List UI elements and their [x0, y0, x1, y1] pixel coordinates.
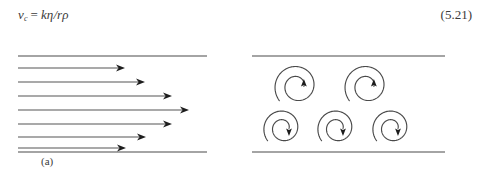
- eddy: [345, 67, 384, 101]
- equation-right-hand-side: kη/rρ: [41, 7, 69, 22]
- laminar-flow-diagram: [0, 36, 245, 175]
- streamline-arrow: [18, 145, 126, 152]
- figure-area: (a) (b): [0, 36, 489, 175]
- eddy-spiral: [264, 111, 298, 141]
- eddy-arrowhead-down: [340, 128, 346, 136]
- panel-turbulent-flow: (b): [245, 36, 489, 175]
- channel-walls-a: [18, 56, 207, 152]
- panel-laminar-flow: (a): [0, 36, 245, 175]
- figure-page: vc=kη/rρ (5.21) (a) (b): [0, 0, 489, 175]
- eddy-group: [264, 67, 407, 141]
- eddy-spiral: [373, 111, 407, 141]
- eddy-spiral: [318, 111, 352, 141]
- streamline-arrow: [18, 93, 172, 100]
- streamline-arrow: [18, 79, 145, 86]
- eddy-spiral: [345, 67, 384, 101]
- streamline-arrow: [18, 65, 125, 72]
- eddy-arrowhead-down: [286, 128, 292, 136]
- panel-caption-a: (a): [41, 155, 53, 167]
- equation-equals-sign: =: [31, 7, 38, 22]
- eddy: [275, 67, 314, 101]
- equation-subscript: c: [24, 14, 28, 23]
- equation-number: (5.21): [441, 7, 472, 23]
- streamline-group: [18, 65, 189, 152]
- eddy-spiral: [275, 67, 314, 101]
- eddy-arrowhead-down: [395, 128, 401, 136]
- eddy: [373, 111, 407, 141]
- eddy: [318, 111, 352, 141]
- streamline-arrow: [18, 134, 146, 141]
- equation-expression: vc=kη/rρ: [18, 7, 69, 23]
- equation-row: vc=kη/rρ (5.21): [0, 0, 489, 36]
- channel-walls-b: [252, 56, 445, 152]
- streamline-arrow: [18, 121, 172, 128]
- streamline-arrow: [18, 107, 189, 114]
- turbulent-flow-diagram: [245, 36, 489, 175]
- eddy: [264, 111, 298, 141]
